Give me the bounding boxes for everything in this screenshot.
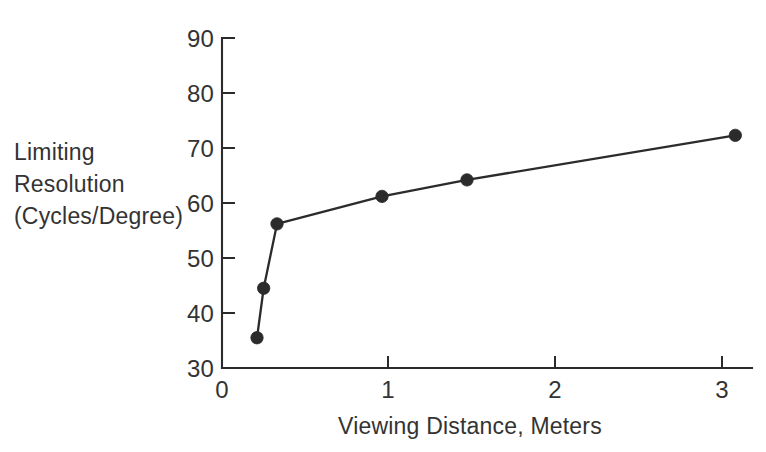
data-point-marker xyxy=(257,282,269,294)
x-axis-title: Viewing Distance, Meters xyxy=(338,413,602,439)
x-tick-label-2: 2 xyxy=(548,376,562,403)
data-point-marker xyxy=(251,332,263,344)
chart-figure: Limiting Resolution (Cycles/Degree) 90 8… xyxy=(0,0,766,452)
data-series-group xyxy=(251,129,742,344)
y-axis-title-line-3: (Cycles/Degree) xyxy=(14,203,183,229)
series-line-limiting-resolution xyxy=(257,135,735,337)
y-tick-label-50: 50 xyxy=(187,245,214,272)
y-tick-label-40: 40 xyxy=(187,300,214,327)
y-tick-label-70: 70 xyxy=(187,135,214,162)
chart-canvas: Limiting Resolution (Cycles/Degree) 90 8… xyxy=(0,0,766,452)
data-point-marker xyxy=(461,174,473,186)
y-tick-label-60: 60 xyxy=(187,190,214,217)
x-tick-label-1: 1 xyxy=(381,376,395,403)
y-axis-title-line-1: Limiting xyxy=(14,139,95,165)
y-axis-title-line-2: Resolution xyxy=(14,171,125,197)
x-tick-label-3: 3 xyxy=(715,376,729,403)
x-axis-ticks: 0 1 2 3 xyxy=(215,356,729,403)
data-point-marker xyxy=(729,129,741,141)
data-point-marker xyxy=(271,218,283,230)
y-axis-ticks: 90 80 70 60 50 40 30 xyxy=(187,25,235,382)
y-axis-title: Limiting Resolution (Cycles/Degree) xyxy=(14,139,183,229)
data-point-marker xyxy=(376,190,388,202)
x-tick-label-0: 0 xyxy=(215,376,229,403)
y-tick-label-90: 90 xyxy=(187,25,214,52)
series-markers-group xyxy=(251,129,742,344)
y-tick-label-30: 30 xyxy=(187,355,214,382)
y-tick-label-80: 80 xyxy=(187,80,214,107)
